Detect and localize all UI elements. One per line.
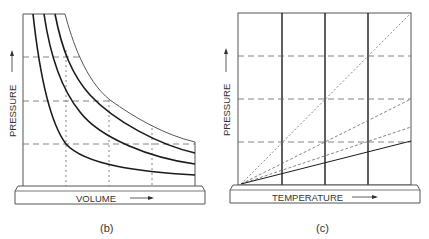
panel-b-pv-diagram: VOLUME PRESSURE (b) bbox=[7, 14, 205, 234]
panel-c-pressure-lines bbox=[241, 13, 411, 184]
panel-c-ylabel: PRESSURE bbox=[221, 84, 232, 136]
panel-b-xlabel: VOLUME bbox=[76, 193, 116, 204]
diagram-canvas: VOLUME PRESSURE (b) bbox=[0, 0, 429, 239]
panel-b-y-arrow-icon bbox=[10, 50, 14, 72]
panel-c-pt-diagram: TEMPERATURE PRESSURE (c) bbox=[221, 13, 420, 234]
panel-b-volume-gridlines bbox=[66, 50, 152, 186]
panel-c-caption: (c) bbox=[316, 222, 329, 234]
panel-c-xlabel: TEMPERATURE bbox=[272, 192, 343, 203]
panel-b-isotherms bbox=[33, 14, 195, 175]
panel-b-ylabel: PRESSURE bbox=[7, 85, 18, 137]
panel-b-caption: (b) bbox=[100, 222, 113, 234]
isotherm-2 bbox=[44, 14, 195, 164]
isotherm-1 bbox=[33, 14, 195, 175]
isotherm-3 bbox=[55, 14, 195, 153]
panel-c-isochore-verticals bbox=[282, 13, 368, 185]
panel-c-y-arrow-icon bbox=[224, 48, 228, 72]
